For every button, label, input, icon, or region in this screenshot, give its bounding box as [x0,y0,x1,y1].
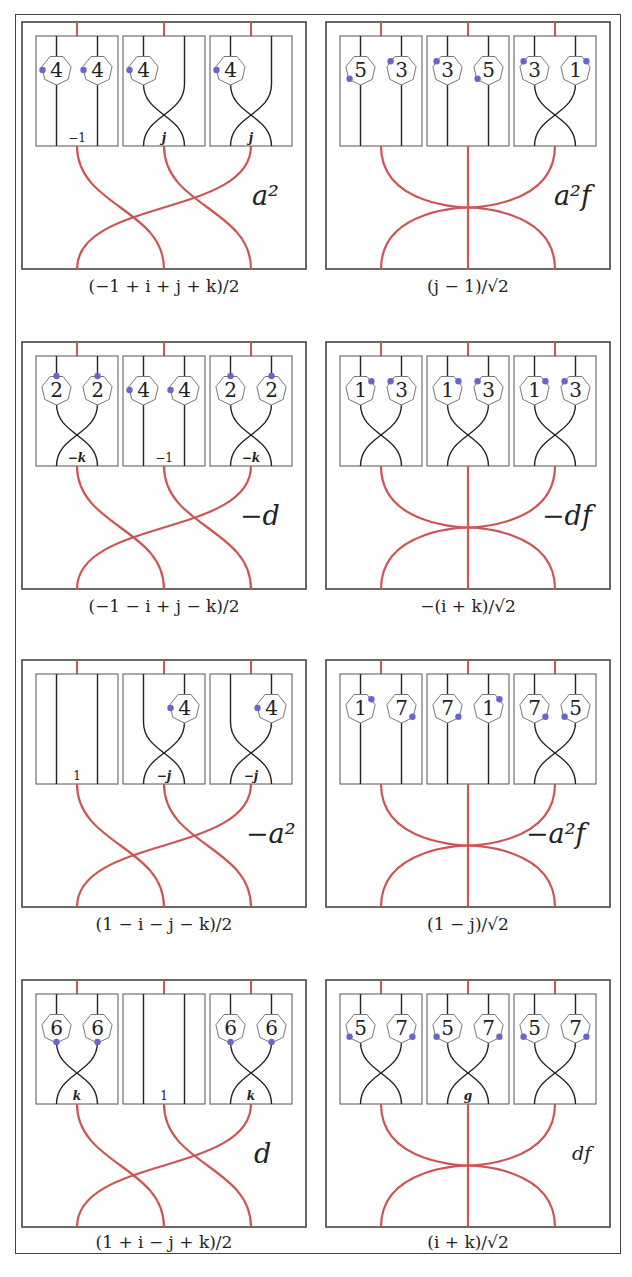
node-number: 5 [441,1016,454,1040]
sub-box [123,36,205,146]
marker-dot [496,1033,502,1039]
sub-box [210,36,292,146]
marker-dot [455,713,461,719]
caption-p8: (i + k)/√2 [326,1232,610,1252]
marker-dot [455,378,461,384]
sub-box [514,356,596,466]
marker-dot [542,378,548,384]
box-label: −j [244,769,259,783]
marker-dot [346,1033,352,1039]
marker-dot [254,705,260,711]
marker-dot [227,1039,233,1045]
marker-dot [496,696,502,702]
box-label: −j [157,769,172,783]
node-number: 3 [569,378,582,402]
marker-dot [409,1033,415,1039]
caption-p5: (1 − i − j − k)/2 [22,914,306,934]
marker-dot [167,387,173,393]
panel-label-p2: a²f [554,180,591,211]
node-number: 1 [354,378,367,402]
marker-dot [53,1039,59,1045]
box-label: 1 [73,769,81,783]
marker-dot [80,67,86,73]
node-number: 4 [178,696,191,720]
red-strand [164,1104,251,1227]
marker-dot [561,713,567,719]
node-number: 5 [528,1016,541,1040]
node-number: 6 [91,1016,104,1040]
marker-dot [561,378,567,384]
sub-box [427,356,509,466]
node-number: 4 [137,58,150,82]
marker-dot [126,387,132,393]
sub-box [514,674,596,784]
sub-box [340,36,422,146]
sub-box [123,356,205,466]
node-number: 3 [395,58,408,82]
sub-box [427,36,509,146]
node-number: 1 [441,378,454,402]
node-number: 2 [224,378,237,402]
node-number: 1 [569,58,582,82]
caption-p3: (−1 − i + j − k)/2 [22,596,306,616]
box-label: −1 [155,451,173,465]
panel-label-p5: −a² [246,818,296,849]
marker-dot [39,67,45,73]
node-number: 5 [354,58,367,82]
node-number: 4 [91,58,104,82]
marker-dot [474,378,480,384]
red-strand [77,146,164,269]
box-label: j [247,131,254,145]
marker-dot [346,75,352,81]
sub-box [123,994,205,1104]
marker-dot [520,58,526,64]
red-strand [164,146,251,269]
caption-p1: (−1 + i + j + k)/2 [22,276,306,296]
marker-dot [368,696,374,702]
panel-label-p1: a² [252,180,279,211]
marker-dot [542,713,548,719]
panel-label-p8: df [572,1142,591,1164]
box-label: −k [242,451,260,465]
marker-dot [53,373,59,379]
marker-dot [409,713,415,719]
sub-box [210,674,292,784]
red-strand [77,1104,164,1227]
node-number: 3 [528,58,541,82]
panel-label-p7: d [254,1138,271,1169]
node-number: 7 [395,696,408,720]
node-number: 1 [482,696,495,720]
node-number: 7 [569,1016,582,1040]
marker-dot [268,373,274,379]
marker-dot [268,1039,274,1045]
node-number: 4 [224,58,237,82]
marker-dot [583,58,589,64]
panel-label-p3: −d [240,500,280,531]
sub-box [36,356,118,466]
node-number: 6 [265,1016,278,1040]
box-label: g [464,1089,472,1103]
node-number: 5 [482,58,495,82]
marker-dot [94,373,100,379]
marker-dot [213,67,219,73]
marker-dot [387,378,393,384]
marker-dot [167,705,173,711]
sub-box [427,994,509,1104]
node-number: 5 [569,696,582,720]
red-strand [77,146,251,269]
node-number: 2 [91,378,104,402]
node-number: 1 [354,696,367,720]
node-number: 4 [265,696,278,720]
box-label: k [247,1089,255,1103]
node-number: 3 [482,378,495,402]
caption-p4: −(i + k)/√2 [326,596,610,616]
caption-p6: (1 − j)/√2 [326,914,610,934]
box-label: 1 [160,1089,168,1103]
red-strand [77,784,251,907]
node-number: 2 [265,378,278,402]
sub-box [123,674,205,784]
marker-dot [520,1033,526,1039]
marker-dot [126,67,132,73]
box-label: −1 [68,131,86,145]
node-number: 2 [50,378,63,402]
